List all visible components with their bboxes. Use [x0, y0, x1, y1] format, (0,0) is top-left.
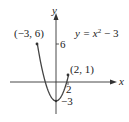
point-left-label: (−3, 6) [14, 27, 44, 40]
parabola-curve [37, 44, 68, 101]
parabola-graph: y x (−3, 6) (2, 1) 6 2 −3 y = x2 − 3 [0, 0, 129, 122]
equation-lhs: y = x [74, 27, 98, 39]
equation-label: y = x2 − 3 [74, 27, 119, 39]
tick-label-y6: 6 [60, 38, 66, 50]
vertex-point [55, 100, 57, 102]
x-axis-label: x [118, 75, 124, 87]
tick-label-ym3: −3 [61, 95, 73, 107]
endpoint-right [67, 74, 70, 77]
x-axis-arrow-icon [110, 80, 117, 85]
endpoint-left [36, 43, 39, 46]
equation-rhs: − 3 [101, 27, 119, 39]
tick-label-x2: 2 [66, 83, 72, 95]
y-axis-label: y [51, 4, 57, 16]
point-right-label: (2, 1) [70, 63, 94, 76]
